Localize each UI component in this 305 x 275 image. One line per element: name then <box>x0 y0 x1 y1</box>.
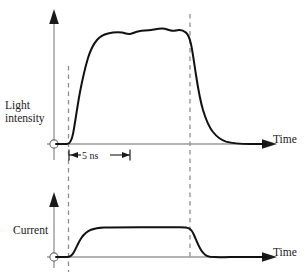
top-panel-y-axis-label-line2: intensity <box>5 112 45 125</box>
light-intensity-curve <box>56 29 266 144</box>
top-panel-y-axis-label-line1: Light <box>5 99 45 112</box>
top-panel-x-axis-label: Time <box>273 133 297 146</box>
top-y-axis-arrowhead <box>49 9 59 24</box>
bottom-y-axis-arrowhead <box>49 192 59 207</box>
duration-label: 5 ns <box>82 150 98 161</box>
duration-dimension-annotation <box>69 150 130 161</box>
current-curve <box>56 227 266 257</box>
light-intensity-current-figure: Light intensity Current Time Time 5 ns <box>0 0 305 275</box>
dimension-left-arrowhead <box>70 152 78 158</box>
top-panel-y-axis-label: Light intensity <box>5 99 45 125</box>
bottom-panel-x-axis-label: Time <box>273 246 297 259</box>
dimension-right-arrowhead <box>122 152 130 158</box>
bottom-panel-y-axis-label: Current <box>13 224 48 237</box>
